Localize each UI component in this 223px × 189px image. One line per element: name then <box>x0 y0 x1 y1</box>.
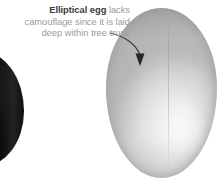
egg-comparison-figure: Elliptical egg lacks camouflage since it… <box>0 0 223 189</box>
annotation-bold-label: Elliptical egg <box>49 4 106 15</box>
annotation-text: Elliptical egg lacks camouflage since it… <box>2 4 130 39</box>
dark-egg-partial <box>0 51 24 167</box>
dark-egg-body <box>0 51 24 167</box>
